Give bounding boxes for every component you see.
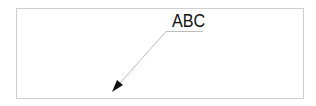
- diagram-canvas: [0, 0, 316, 106]
- frame-border: [17, 9, 304, 99]
- leader-slant-line: [120, 32, 166, 84]
- annotation-label: ABC: [172, 11, 205, 31]
